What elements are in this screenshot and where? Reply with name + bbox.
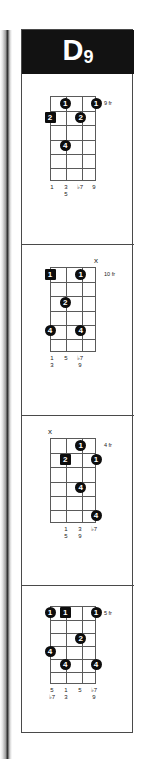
fret-line bbox=[51, 125, 95, 126]
interval-label-column: 13 bbox=[59, 687, 73, 700]
interval-label-column: 1 bbox=[45, 184, 59, 197]
finger-dot[interactable]: 1 bbox=[45, 269, 56, 280]
chord-root: D bbox=[63, 36, 84, 64]
chord-voicing[interactable]: 112249 fr135♭79 bbox=[22, 74, 134, 245]
fret-line bbox=[51, 633, 95, 634]
finger-dot[interactable]: 2 bbox=[75, 112, 86, 123]
interval-label-column: 35 bbox=[59, 184, 73, 197]
interval-label-primary: 5 bbox=[78, 687, 81, 694]
chord-voicing[interactable]: x1124410 fr135♭79 bbox=[22, 245, 134, 416]
finger-dot[interactable]: 1 bbox=[91, 607, 102, 618]
interval-label-column: ♭7 bbox=[73, 184, 87, 197]
interval-label-column: ♭7 bbox=[87, 526, 101, 539]
interval-label-secondary: 3 bbox=[50, 362, 53, 369]
interval-label-primary: 1 bbox=[50, 184, 53, 191]
chord-extension: 9 bbox=[83, 43, 93, 71]
finger-dot[interactable]: 4 bbox=[91, 510, 102, 521]
interval-labels: 135♭79 bbox=[45, 184, 101, 197]
interval-labels: 1539♭7 bbox=[45, 526, 101, 539]
fret-line bbox=[51, 467, 95, 468]
fret-grid bbox=[50, 606, 96, 684]
interval-label-column: 15 bbox=[59, 526, 73, 539]
fret-position-label: 10 fr bbox=[104, 271, 115, 277]
interval-label-column: ♭79 bbox=[73, 355, 87, 368]
interval-label-column: 9 bbox=[87, 184, 101, 197]
interval-label-primary: 5 bbox=[64, 355, 67, 362]
interval-label-secondary: 9 bbox=[78, 533, 81, 540]
fret-position-label: 5 fr bbox=[104, 610, 112, 616]
fret-position-label: 4 fr bbox=[104, 442, 112, 448]
muted-string-marker: x bbox=[92, 257, 100, 265]
fret-line bbox=[51, 296, 95, 297]
interval-label-secondary: 9 bbox=[78, 362, 81, 369]
chord-voicing[interactable]: x121444 fr1539♭7 bbox=[22, 416, 134, 586]
finger-dot[interactable]: 1 bbox=[60, 607, 71, 618]
fret-grid bbox=[50, 267, 96, 352]
fret-line bbox=[51, 646, 95, 647]
finger-dot[interactable]: 2 bbox=[60, 454, 71, 465]
interval-label-primary: ♭7 bbox=[77, 184, 83, 191]
interval-label-column: 5♭7 bbox=[45, 687, 59, 700]
page-edge-artifact bbox=[0, 0, 12, 759]
fretboard-diagram: 112249 fr135♭79 bbox=[22, 74, 134, 244]
interval-label-primary: ♭7 bbox=[91, 526, 97, 533]
interval-label-primary: 9 bbox=[92, 184, 95, 191]
fret-line bbox=[51, 111, 95, 112]
fret-line bbox=[51, 620, 95, 621]
fret-line bbox=[51, 453, 95, 454]
interval-label-column bbox=[45, 526, 59, 539]
interval-label-secondary: ♭7 bbox=[49, 694, 55, 701]
interval-label-column: 39 bbox=[73, 526, 87, 539]
interval-labels: 5♭7135♭79 bbox=[45, 687, 101, 700]
interval-label-secondary: 9 bbox=[92, 694, 95, 701]
interval-label-column bbox=[87, 355, 101, 368]
fretboard-diagram: x121444 fr1539♭7 bbox=[22, 416, 134, 585]
fret-line bbox=[51, 325, 95, 326]
finger-dot[interactable]: 1 bbox=[75, 269, 86, 280]
fret-line bbox=[51, 672, 95, 673]
fret-line bbox=[51, 311, 95, 312]
interval-label-secondary: 5 bbox=[64, 533, 67, 540]
fret-line bbox=[51, 510, 95, 511]
fret-line bbox=[51, 154, 95, 155]
chord-card: D9 112249 fr135♭79x1124410 fr135♭79x1214… bbox=[21, 29, 133, 733]
interval-label-column: 5 bbox=[73, 687, 87, 700]
fret-line bbox=[51, 496, 95, 497]
fret-grid bbox=[50, 438, 96, 523]
chord-title-banner: D9 bbox=[22, 30, 134, 74]
finger-dot[interactable]: 4 bbox=[60, 659, 71, 670]
muted-string-marker: x bbox=[46, 428, 54, 436]
page-title: D9 bbox=[63, 36, 94, 68]
interval-label-column: 5 bbox=[59, 355, 73, 368]
finger-dot[interactable]: 4 bbox=[45, 325, 56, 336]
finger-dot[interactable]: 2 bbox=[60, 297, 71, 308]
fret-line bbox=[51, 339, 95, 340]
fretboard-diagram: 11124445 fr5♭7135♭79 bbox=[22, 586, 134, 734]
interval-label-secondary: 3 bbox=[64, 694, 67, 701]
fret-line bbox=[51, 140, 95, 141]
page-edge-top-mask bbox=[0, 0, 12, 30]
finger-dot[interactable]: 4 bbox=[45, 646, 56, 657]
finger-dot[interactable]: 4 bbox=[60, 140, 71, 151]
finger-dot[interactable]: 1 bbox=[91, 98, 102, 109]
fret-line bbox=[51, 659, 95, 660]
interval-label-column: ♭79 bbox=[87, 687, 101, 700]
fret-position-label: 9 fr bbox=[104, 100, 112, 106]
finger-dot[interactable]: 1 bbox=[75, 440, 86, 451]
finger-dot[interactable]: 1 bbox=[91, 454, 102, 465]
interval-labels: 135♭79 bbox=[45, 355, 101, 368]
fret-grid bbox=[50, 96, 96, 181]
fret-line bbox=[51, 482, 95, 483]
finger-dot[interactable]: 2 bbox=[45, 112, 56, 123]
finger-dot[interactable]: 1 bbox=[45, 607, 56, 618]
fret-line bbox=[51, 282, 95, 283]
interval-label-column: 13 bbox=[45, 355, 59, 368]
chord-voicing[interactable]: 11124445 fr5♭7135♭79 bbox=[22, 586, 134, 734]
finger-dot[interactable]: 4 bbox=[91, 659, 102, 670]
fret-line bbox=[51, 168, 95, 169]
interval-label-secondary: 5 bbox=[64, 191, 67, 198]
fretboard-diagram: x1124410 fr135♭79 bbox=[22, 245, 134, 415]
finger-dot[interactable]: 1 bbox=[60, 98, 71, 109]
